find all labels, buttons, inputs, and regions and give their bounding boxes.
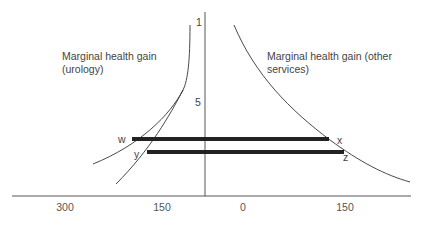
- x-tick-150-left: 150: [153, 201, 171, 213]
- x-tick-150-right: 150: [336, 201, 354, 213]
- other-label-line1: Marginal health gain (other: [267, 50, 392, 63]
- other-services-curve: [234, 25, 410, 182]
- urology-label-line2: (urology): [62, 63, 157, 76]
- other-label-line2: services): [267, 63, 392, 76]
- x-tick-0: 0: [240, 201, 246, 213]
- urology-curve-label: Marginal health gain (urology): [62, 50, 157, 76]
- point-label-z: z: [343, 151, 348, 164]
- marginal-health-gain-diagram: Marginal health gain (urology) Marginal …: [0, 0, 431, 230]
- axis-label-1: 1: [196, 16, 202, 29]
- point-label-x: x: [337, 134, 342, 147]
- other-services-curve-label: Marginal health gain (other services): [267, 50, 392, 76]
- diagram-canvas: [0, 0, 431, 230]
- point-label-w: w: [118, 133, 126, 146]
- point-label-y: y: [134, 148, 139, 161]
- axis-label-5: 5: [195, 96, 201, 109]
- urology-curve: [93, 25, 190, 164]
- x-tick-300: 300: [56, 201, 74, 213]
- urology-label-line1: Marginal health gain: [62, 50, 157, 63]
